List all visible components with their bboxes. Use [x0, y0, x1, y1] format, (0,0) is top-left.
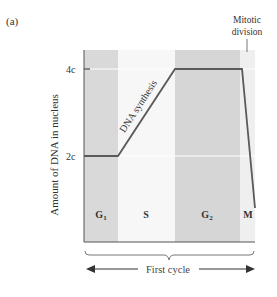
cycle-label: First cycle: [146, 264, 190, 275]
mitotic-label-line1: Mitotic: [233, 15, 261, 25]
phase-label-m: M: [243, 209, 253, 220]
ytick-label-2c: 2c: [66, 151, 76, 162]
ytick-label-4c: 4c: [66, 64, 76, 75]
panel-label: (a): [6, 15, 19, 28]
mitotic-label-line2: division: [232, 27, 263, 37]
y-axis-label: Amount of DNA in nucleus: [48, 94, 60, 216]
cell-cycle-diagram: (a) 4c 2c Amount of DNA in nucleus DNA s…: [0, 0, 277, 297]
cycle-brace: [85, 251, 254, 260]
arrow-right-icon: [246, 265, 255, 273]
arrow-left-icon: [86, 265, 95, 273]
phase-label-s: S: [143, 209, 149, 220]
